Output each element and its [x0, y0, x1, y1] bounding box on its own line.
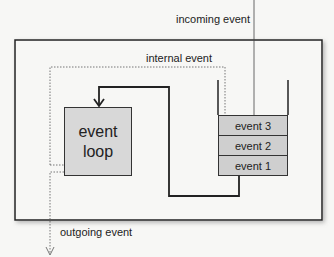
incoming-event-label: incoming event: [176, 13, 250, 25]
event-loop-box: event loop: [64, 107, 132, 176]
event-loop-label-line1: event: [78, 122, 117, 142]
queue-item-event-3: event 3: [218, 115, 288, 136]
event-loop-label-line2: loop: [83, 142, 113, 162]
queue-item-event-2: event 2: [218, 135, 288, 156]
outgoing-event-label: outgoing event: [60, 226, 132, 238]
queue-item-event-1: event 1: [218, 155, 288, 176]
internal-event-label: internal event: [146, 52, 212, 64]
